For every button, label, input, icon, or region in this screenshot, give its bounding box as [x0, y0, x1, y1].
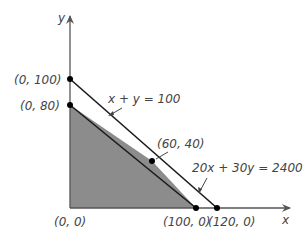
point-60-40: [149, 158, 155, 164]
label-point-0-100: (0, 100): [14, 73, 62, 87]
label-20x-30y-2400: 20x + 30y = 2400: [192, 161, 303, 175]
label-x-plus-y-100: x + y = 100: [107, 92, 181, 106]
label-point-100-0: (100, 0): [163, 215, 211, 229]
label-point-120-0: (120, 0): [208, 215, 256, 229]
y-axis-label: y: [57, 11, 66, 25]
label-point-0-80: (0, 80): [20, 99, 60, 113]
point-0-80: [67, 102, 73, 108]
x-axis-label: x: [281, 213, 290, 227]
label-point-60-40: (60, 40): [157, 137, 205, 151]
point-0-100: [67, 76, 73, 82]
label-point-0-0: (0, 0): [54, 215, 86, 229]
lp-diagram: y x x + y = 100 20x + 30y = 2400 (60, 40…: [0, 0, 308, 243]
point-120-0: [214, 205, 220, 211]
point-100-0: [193, 205, 199, 211]
